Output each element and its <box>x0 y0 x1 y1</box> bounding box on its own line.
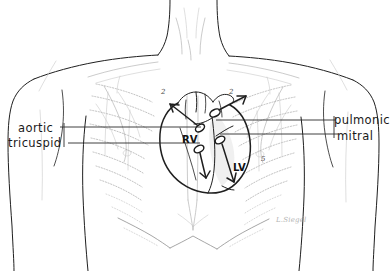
label-right-ventricle: RV <box>182 134 197 145</box>
pectoral-contours <box>96 86 291 163</box>
artist-signature: L.Siegel <box>276 216 307 224</box>
label-mitral: mitral <box>337 129 373 143</box>
label-left-ventricle: LV <box>233 162 246 173</box>
rib-marker-left-second: 2 <box>161 88 165 96</box>
clavicle-region <box>88 62 299 94</box>
rib-marker-right-second: 2 <box>229 88 233 96</box>
label-pulmonic: pulmonic <box>334 113 390 127</box>
rib-marker-right-fifth: 5 <box>261 155 265 163</box>
label-aortic: aortic <box>18 121 53 135</box>
valve-tricuspid <box>193 144 205 155</box>
paper-texture <box>39 60 348 202</box>
label-tricuspid: tricuspid <box>8 136 61 150</box>
ribcage-left <box>90 84 170 248</box>
